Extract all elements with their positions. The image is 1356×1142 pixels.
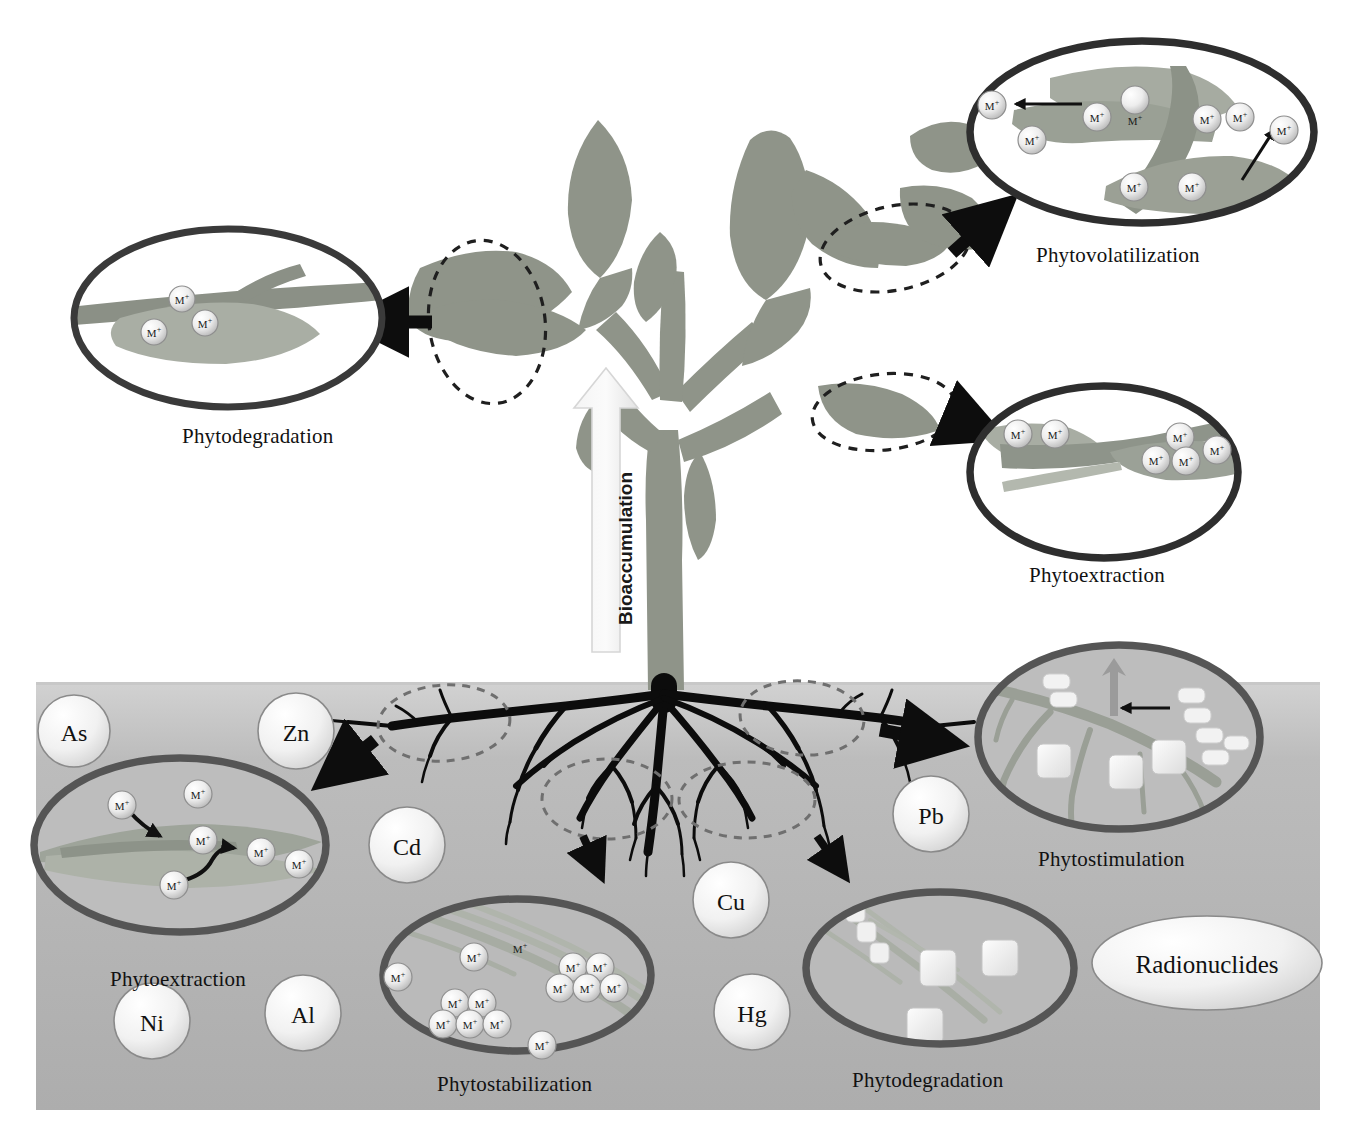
contaminant-label-Cu: Cu (717, 889, 745, 916)
contaminant-label-Zn: Zn (283, 720, 310, 747)
contaminant-label-Pb: Pb (918, 803, 943, 830)
caption-phytostimulation: Phytostimulation (1038, 847, 1185, 872)
callout-phytodegradation-leaf (60, 229, 382, 407)
phytoremediation-diagram: Bioaccumulation Phytodegradation Phytovo… (0, 0, 1356, 1142)
callout-phytostimulation (978, 645, 1260, 829)
contaminant-label-Cd: Cd (393, 834, 421, 861)
caption-phytostabilization: Phytostabilization (437, 1072, 592, 1097)
caption-phytodegradation-root: Phytodegradation (852, 1068, 1003, 1093)
plant-shoot (408, 120, 992, 690)
contaminant-label-Ni: Ni (140, 1010, 164, 1037)
callout-phytodegradation-root (806, 892, 1074, 1044)
contaminant-label-Hg: Hg (737, 1001, 766, 1028)
caption-phytoextraction-root: Phytoextraction (110, 967, 246, 992)
caption-phytoextraction-leaf: Phytoextraction (1029, 563, 1165, 588)
contaminant-label-Al: Al (291, 1002, 315, 1029)
contaminant-label-As: As (61, 720, 88, 747)
callout-phytoextraction-root (34, 758, 326, 932)
radionuclides-label: Radionuclides (1135, 951, 1278, 979)
caption-phytovolatilization: Phytovolatilization (1036, 243, 1200, 268)
caption-phytodegradation-leaf: Phytodegradation (182, 424, 333, 449)
bioaccumulation-label: Bioaccumulation (615, 472, 637, 625)
callout-phytoextraction-leaf (970, 386, 1262, 558)
callout-phytovolatilization (970, 41, 1314, 223)
